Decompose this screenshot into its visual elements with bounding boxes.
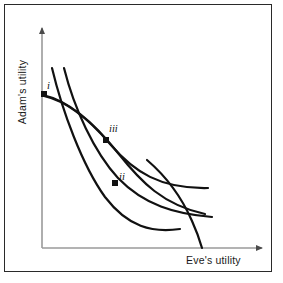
curve-utility-possibility-frontier bbox=[43, 95, 205, 214]
curves-group bbox=[43, 68, 212, 248]
curve-social-indifference bbox=[44, 96, 208, 188]
plot-area bbox=[0, 0, 283, 283]
point-marker-iii bbox=[103, 137, 109, 143]
x-axis-label: Eve's utility bbox=[186, 254, 241, 266]
point-label-i: i bbox=[47, 80, 50, 91]
point-markers-group bbox=[41, 91, 118, 186]
curve-indifference-mid bbox=[64, 68, 212, 217]
point-marker-ii bbox=[112, 180, 118, 186]
point-label-ii: ii bbox=[119, 171, 125, 182]
y-axis-label: Adam's utility bbox=[16, 44, 28, 140]
point-marker-i bbox=[41, 91, 47, 97]
point-label-iii: iii bbox=[109, 123, 118, 134]
figure-container: Adam's utility Eve's utility i ii iii bbox=[0, 0, 283, 283]
